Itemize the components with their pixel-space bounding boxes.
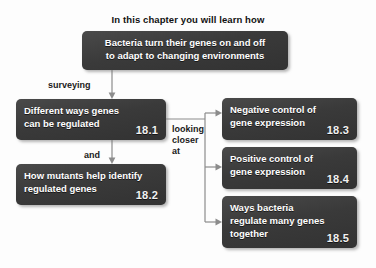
- box-text-line: Positive control of: [230, 152, 349, 165]
- concept-box-main[interactable]: Bacteria turn their genes on and off to …: [82, 31, 288, 70]
- connector-label-and: and: [84, 150, 100, 160]
- chapter-concept-map: In this chapter you will learn how surve…: [0, 0, 376, 268]
- concept-box-18-5[interactable]: Ways bacteria regulate many genes togeth…: [222, 196, 357, 248]
- connector-label-line: looking: [172, 124, 204, 135]
- box-text-line: regulate many genes: [230, 214, 349, 227]
- box-text-line: to adapt to changing environments: [90, 49, 280, 62]
- section-number: 18.1: [136, 124, 158, 136]
- connector-label-line: at: [172, 146, 204, 157]
- connector-label-looking-closer-at: looking closer at: [172, 124, 204, 157]
- box-text-line: Ways bacteria: [230, 201, 349, 214]
- box-text-line: Different ways genes: [24, 104, 158, 117]
- connector-label-surveying: surveying: [48, 80, 91, 90]
- connector-label-line: closer: [172, 135, 204, 146]
- section-number: 18.5: [327, 232, 349, 244]
- box-text-line: How mutants help identify: [24, 169, 158, 182]
- concept-box-18-1[interactable]: Different ways genes can be regulated 18…: [16, 99, 166, 140]
- box-text-line: Negative control of: [230, 103, 349, 116]
- section-number: 18.4: [327, 173, 349, 185]
- concept-box-18-3[interactable]: Negative control of gene expression 18.3: [222, 98, 357, 140]
- section-number: 18.2: [136, 189, 158, 201]
- concept-box-18-4[interactable]: Positive control of gene expression 18.4: [222, 147, 357, 189]
- section-number: 18.3: [327, 124, 349, 136]
- concept-box-18-2[interactable]: How mutants help identify regulated gene…: [16, 164, 166, 205]
- box-text-line: Bacteria turn their genes on and off: [90, 36, 280, 49]
